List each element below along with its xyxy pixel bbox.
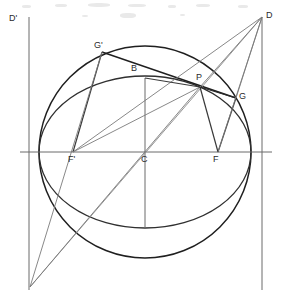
scan-speck [238,5,248,8]
segment-P-F [200,87,218,152]
scan-speck [120,13,136,18]
segment-lowerleft-P [30,87,200,287]
segment-Gprime-G [102,52,236,98]
scan-speck [180,14,185,16]
segment-G-D [236,17,262,98]
segment-Fprime-D [73,17,262,152]
label-P: P [196,73,202,82]
label-C: C [141,155,148,164]
label-D: D [266,11,273,20]
scan-speck [128,4,146,7]
label-F: F [213,155,219,164]
scan-speck [196,4,210,7]
scan-speck [82,15,88,17]
label-G-prime: G' [94,41,103,50]
geometry-figure [0,0,283,302]
label-F-prime: F' [68,155,75,164]
scan-speck [55,4,67,7]
label-D-prime: D' [9,14,17,23]
scan-speck [88,3,110,7]
scan-speck [22,5,31,8]
segment-Fprime-P [73,87,200,152]
scan-speck [168,5,176,8]
label-B: B [131,64,137,73]
label-G: G [239,92,246,101]
segment-P-D [200,17,262,87]
